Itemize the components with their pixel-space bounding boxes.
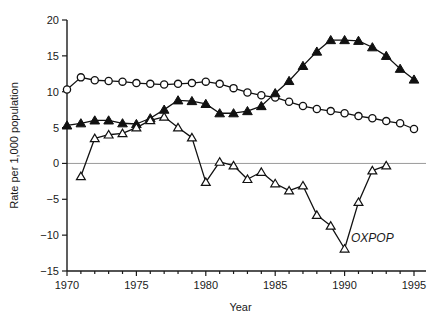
data-point-open-circle-series [369, 115, 376, 122]
data-point-open-circle-series [105, 77, 112, 84]
data-point-open-triangle-series [215, 158, 224, 165]
x-axis-title-text: Year [229, 301, 252, 313]
y-tick-label: 0 [53, 157, 59, 169]
y-tick-label: −5 [46, 193, 59, 205]
x-tick-label: 1990 [332, 279, 356, 291]
data-point-open-triangle-series [340, 245, 349, 252]
data-point-open-circle-series [313, 105, 320, 112]
y-tick-label: 20 [47, 14, 59, 26]
data-point-open-circle-series [119, 78, 126, 85]
data-point-open-circle-series [174, 80, 181, 87]
data-point-open-circle-series [341, 110, 348, 117]
data-point-open-triangle-series [312, 211, 321, 218]
data-point-open-triangle-series [188, 133, 197, 140]
data-point-filled-triangle-series [381, 51, 391, 59]
data-point-open-circle-series [327, 107, 334, 114]
series-line-open-circle-series [67, 77, 414, 129]
data-point-open-triangle-series [299, 181, 308, 188]
data-point-open-circle-series [230, 85, 237, 92]
x-tick-label: 1975 [124, 279, 148, 291]
data-point-open-triangle-series [354, 198, 363, 205]
data-point-open-triangle-series [201, 178, 210, 185]
data-point-open-circle-series [188, 80, 195, 87]
y-tick-label: −15 [40, 265, 59, 277]
data-point-open-circle-series [244, 89, 251, 96]
data-point-open-triangle-series [160, 113, 169, 120]
data-point-open-circle-series [147, 80, 154, 87]
data-point-open-circle-series [299, 102, 306, 109]
data-point-open-circle-series [397, 120, 404, 127]
x-tick-label: 1980 [194, 279, 218, 291]
data-point-filled-triangle-series [243, 106, 253, 114]
data-point-open-circle-series [258, 92, 265, 99]
data-point-open-circle-series [161, 81, 168, 88]
data-point-open-circle-series [133, 80, 140, 87]
data-point-open-circle-series [77, 74, 84, 81]
data-point-open-circle-series [63, 86, 70, 93]
data-point-open-triangle-series [257, 168, 266, 175]
x-tick-label: 1970 [55, 279, 79, 291]
y-tick-label: 10 [47, 86, 59, 98]
y-axis-title-text: Rate per 1,000 population [8, 82, 20, 209]
data-point-filled-triangle-series [173, 96, 183, 104]
data-point-open-circle-series [383, 118, 390, 125]
data-point-open-circle-series [355, 112, 362, 119]
data-point-open-triangle-series [76, 172, 85, 179]
data-point-open-triangle-series [382, 161, 391, 168]
chart-figure: −15−10−505101520197019751980198519901995… [0, 0, 440, 321]
data-point-open-triangle-series [118, 129, 127, 136]
data-point-open-circle-series [202, 78, 209, 85]
y-tick-label: 5 [53, 122, 59, 134]
y-tick-label: −10 [40, 229, 59, 241]
x-tick-label: 1995 [402, 279, 426, 291]
data-point-open-circle-series [410, 125, 417, 132]
data-point-open-circle-series [216, 80, 223, 87]
chart-plot-area: −15−10−505101520197019751980198519901995… [0, 0, 440, 321]
data-point-open-circle-series [91, 77, 98, 84]
data-point-open-circle-series [285, 98, 292, 105]
chart-annotation: OXPOP [351, 231, 394, 245]
y-tick-label: 15 [47, 50, 59, 62]
data-point-filled-triangle-series [368, 43, 378, 51]
x-tick-label: 1985 [263, 279, 287, 291]
